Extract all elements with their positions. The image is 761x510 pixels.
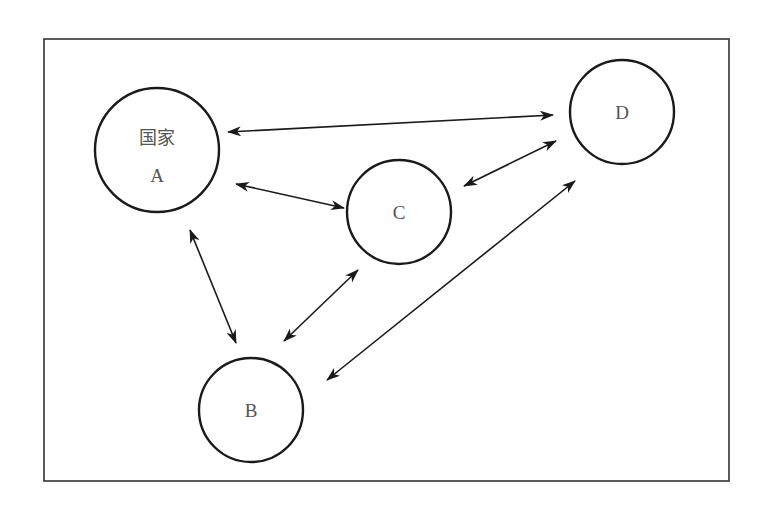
node-a: 国家A [95, 88, 219, 212]
node-c: C [347, 160, 451, 264]
double-arrow-c-d [464, 141, 556, 186]
nodes-group: 国家ABCD [95, 60, 674, 462]
node-b: B [199, 358, 303, 462]
node-label: D [615, 102, 629, 123]
node-label: B [245, 400, 258, 421]
double-arrow-b-c [284, 270, 358, 341]
node-title: 国家 [139, 127, 175, 148]
node-label: A [150, 165, 164, 186]
edges-group [190, 115, 575, 380]
double-arrow-a-c [236, 184, 344, 208]
node-circle [95, 88, 219, 212]
double-arrow-a-d [228, 115, 553, 132]
double-arrow-a-b [190, 230, 236, 343]
relationship-diagram: 国家ABCD [0, 0, 761, 510]
node-label: C [393, 202, 406, 223]
node-d: D [570, 60, 674, 164]
